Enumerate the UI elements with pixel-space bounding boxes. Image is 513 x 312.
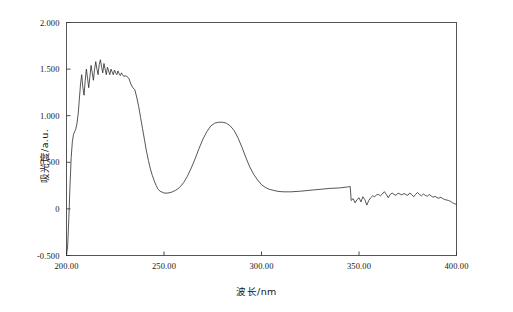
y-tick-label: 2.000 [0,18,60,28]
x-tick-label: 250.00 [152,261,176,271]
y-axis-title: 吸光度/a.u. [37,129,51,183]
x-tick-label: 400.00 [445,261,469,271]
chart-figure: -0.50000.5001.0001.5002.000 200.00250.00… [0,0,513,312]
y-tick-label: 1.500 [0,64,60,74]
plot-frame [67,23,457,256]
y-tick-label: 0 [0,204,60,214]
x-axis-title: 波长/nm [0,284,513,298]
x-tick-label: 350.00 [347,261,371,271]
x-tick-label: 200.00 [55,261,79,271]
y-tick-label: 1.000 [0,111,60,121]
y-tick-label: -0.500 [0,251,60,261]
x-tick-label: 300.00 [250,261,274,271]
